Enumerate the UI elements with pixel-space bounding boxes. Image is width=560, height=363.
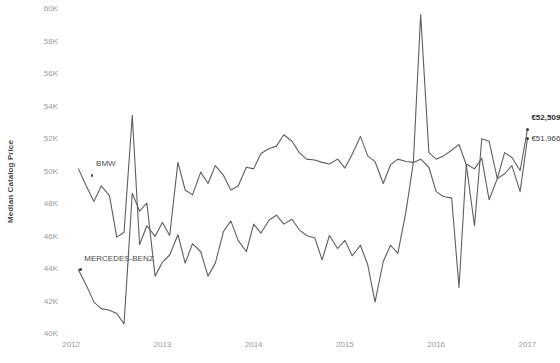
- y-axis-tick-42K: 42K: [24, 296, 58, 305]
- y-axis-tick-60K: 60K: [24, 4, 58, 13]
- x-axis-tick-2014: 2014: [245, 340, 263, 349]
- y-axis-tick-46K: 46K: [24, 231, 58, 240]
- mercedes-series-label-leader-dot: [79, 268, 82, 271]
- x-axis-tick-2017: 2017: [519, 340, 537, 349]
- bmw-endpoint-value: €52,509: [531, 113, 560, 122]
- series-line-bmw: [78, 15, 527, 245]
- series-line-mercedes-benz: [78, 139, 527, 325]
- y-axis-tick-58K: 58K: [24, 36, 58, 45]
- y-axis-tick-54K: 54K: [24, 101, 58, 110]
- y-axis-tick-44K: 44K: [24, 264, 58, 273]
- mercedes-series-label: MERCEDES-BENZ: [84, 254, 153, 263]
- y-axis-title-label: Median Catalog Price: [6, 140, 15, 223]
- y-axis-tick-40K: 40K: [24, 329, 58, 338]
- plot-area: BMWMERCEDES-BENZ€52,509€51,966: [62, 8, 532, 333]
- mercedes-endpoint-value: €51,966: [531, 134, 560, 143]
- y-axis-title: Median Catalog Price: [0, 0, 20, 363]
- x-axis-tick-2013: 2013: [153, 340, 171, 349]
- x-axis-tick-2016: 2016: [427, 340, 445, 349]
- y-axis-tick-50K: 50K: [24, 166, 58, 175]
- mercedes-endpoint-value-marker-dot: [526, 137, 529, 140]
- x-axis-tick-2012: 2012: [62, 340, 80, 349]
- y-axis-tick-52K: 52K: [24, 134, 58, 143]
- y-axis-tick-56K: 56K: [24, 69, 58, 78]
- x-axis-tick-2015: 2015: [336, 340, 354, 349]
- bmw-series-label: BMW: [96, 159, 116, 168]
- series-canvas: [62, 8, 532, 333]
- y-axis-tick-48K: 48K: [24, 199, 58, 208]
